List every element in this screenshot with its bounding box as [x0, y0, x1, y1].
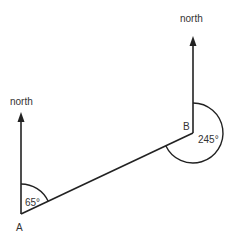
north-arrow-icon-b	[190, 36, 197, 46]
bearing-diagram: north north 65° 245° A B	[0, 0, 233, 235]
north-label-left: north	[10, 96, 33, 107]
north-arrow-icon-a	[18, 112, 25, 122]
north-label-right: north	[180, 13, 203, 24]
line-ab	[21, 133, 193, 214]
angle-label-a: 65°	[25, 197, 40, 208]
angle-label-b: 245°	[198, 134, 219, 145]
point-label-b: B	[183, 121, 190, 132]
angle-arc-b	[166, 103, 223, 163]
point-label-a: A	[16, 222, 23, 233]
